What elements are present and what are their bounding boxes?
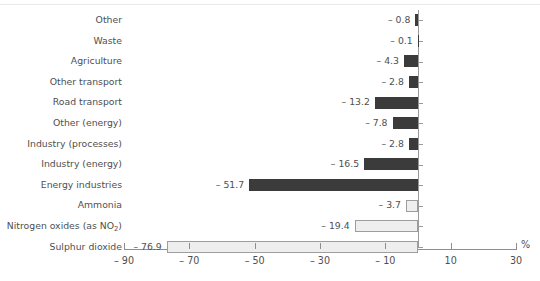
x-axis-tick xyxy=(385,243,386,249)
zero-axis-tick xyxy=(419,62,423,63)
zero-axis-tick xyxy=(419,226,423,227)
bar-value-label: – 19.4 xyxy=(321,216,349,237)
bar xyxy=(167,241,418,253)
bar-value-label: – 13.2 xyxy=(342,92,370,113)
chart-row: Road transport– 13.2 xyxy=(0,92,540,113)
category-label: Nitrogen oxides (as NO2) xyxy=(0,216,122,238)
chart-row: Waste– 0.1 xyxy=(0,31,540,52)
x-axis-tick-label: 10 xyxy=(445,255,457,266)
bar xyxy=(415,14,418,26)
chart-row: Industry (processes)– 2.8 xyxy=(0,134,540,155)
bar-value-label: – 51.7 xyxy=(216,175,244,196)
category-label: Sulphur dioxide xyxy=(0,237,122,258)
x-axis-tick xyxy=(516,243,517,249)
bar xyxy=(355,220,418,232)
bar-value-label: – 76.9 xyxy=(133,237,161,258)
bar xyxy=(364,158,418,170)
chart-row: Sulphur dioxide– 76.9 xyxy=(0,237,540,258)
category-label: Waste xyxy=(0,31,122,52)
x-axis-tick-label: – 50 xyxy=(245,255,265,266)
category-label: Agriculture xyxy=(0,51,122,72)
bar xyxy=(409,76,418,88)
bar xyxy=(406,200,418,212)
zero-axis-tick xyxy=(419,247,423,248)
chart-row: Other (energy)– 7.8 xyxy=(0,113,540,134)
bar xyxy=(409,138,418,150)
x-axis-tick-label: 30 xyxy=(510,255,522,266)
category-label: Industry (energy) xyxy=(0,154,122,175)
x-axis-tick-label: – 70 xyxy=(179,255,199,266)
bar xyxy=(393,117,418,129)
bar-value-label: – 2.8 xyxy=(381,72,403,93)
zero-axis-tick xyxy=(419,123,423,124)
bar xyxy=(375,97,418,109)
x-axis-tick xyxy=(320,243,321,249)
chart-figure: Other– 0.8Waste– 0.1Agriculture– 4.3Othe… xyxy=(0,0,540,281)
category-label: Other transport xyxy=(0,72,122,93)
x-axis-tick xyxy=(451,243,452,249)
x-axis-tick-label: – 10 xyxy=(375,255,395,266)
category-label: Other (energy) xyxy=(0,113,122,134)
zero-axis-tick xyxy=(419,20,423,21)
bar-value-label: – 4.3 xyxy=(377,51,399,72)
zero-axis-tick xyxy=(419,144,423,145)
bar-chart-plot-area: Other– 0.8Waste– 0.1Agriculture– 4.3Othe… xyxy=(0,0,540,281)
bar-value-label: – 7.8 xyxy=(365,113,387,134)
x-axis-tick xyxy=(255,243,256,249)
x-axis-tick-label: – 90 xyxy=(114,255,134,266)
category-label: Ammonia xyxy=(0,195,122,216)
chart-row: Agriculture– 4.3 xyxy=(0,51,540,72)
zero-axis-tick xyxy=(419,206,423,207)
chart-row: Industry (energy)– 16.5 xyxy=(0,154,540,175)
zero-axis-tick xyxy=(419,185,423,186)
bar xyxy=(249,179,418,191)
chart-row: Other transport– 2.8 xyxy=(0,72,540,93)
x-axis-tick xyxy=(189,243,190,249)
bar-value-label: – 0.1 xyxy=(390,31,412,52)
category-label: Industry (processes) xyxy=(0,134,122,155)
chart-row: Ammonia– 3.7 xyxy=(0,195,540,216)
zero-axis-tick xyxy=(419,41,423,42)
category-label: Other xyxy=(0,10,122,31)
x-axis-tick xyxy=(124,243,125,249)
bar-value-label: – 2.8 xyxy=(381,134,403,155)
bar-value-label: – 16.5 xyxy=(331,154,359,175)
x-axis-unit-label: % xyxy=(521,239,530,250)
category-label: Energy industries xyxy=(0,175,122,196)
chart-row: Energy industries– 51.7 xyxy=(0,175,540,196)
chart-row: Other– 0.8 xyxy=(0,10,540,31)
chart-row: Nitrogen oxides (as NO2)– 19.4 xyxy=(0,216,540,237)
category-label: Road transport xyxy=(0,92,122,113)
bar xyxy=(404,55,418,67)
bar-value-label: – 3.7 xyxy=(379,195,401,216)
zero-axis-tick xyxy=(419,103,423,104)
x-axis-tick-label: – 30 xyxy=(310,255,330,266)
zero-axis-tick xyxy=(419,165,423,166)
zero-axis-tick xyxy=(419,82,423,83)
bar-value-label: – 0.8 xyxy=(388,10,410,31)
